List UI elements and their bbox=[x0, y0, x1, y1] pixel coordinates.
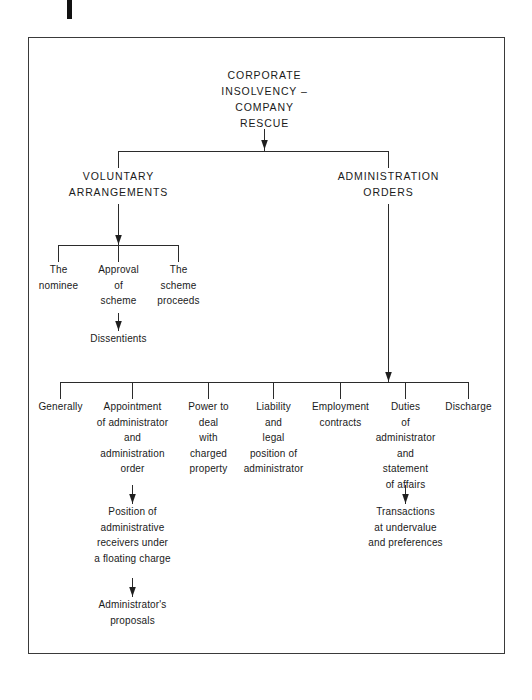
node-appointment-of-administrator: Appointment of administrator and adminis… bbox=[90, 399, 175, 477]
node-administration-orders: ADMINISTRATION ORDERS bbox=[322, 168, 455, 200]
node-transactions-at-undervalue: Transactions at undervalue and preferenc… bbox=[348, 504, 463, 551]
node-duties-of-administrator: Duties of administrator and statement of… bbox=[369, 399, 442, 492]
node-approval-of-scheme: Approval of scheme bbox=[85, 262, 152, 309]
node-employment-contracts: Employment contracts bbox=[304, 399, 377, 430]
node-position-of-administrative-receivers: Position of administrative receivers und… bbox=[74, 504, 191, 566]
page-edge-mark bbox=[67, 0, 72, 19]
node-liability-and-legal-position: Liability and legal position of administ… bbox=[239, 399, 308, 477]
node-root: CORPORATE INSOLVENCY – COMPANY RESCUE bbox=[189, 67, 340, 131]
node-voluntary-arrangements: VOLUNTARY ARRANGEMENTS bbox=[58, 168, 179, 200]
diagram-page: CORPORATE INSOLVENCY – COMPANY RESCUE VO… bbox=[0, 0, 532, 700]
node-power-to-deal-with-charged-property: Power to deal with charged property bbox=[176, 399, 241, 477]
node-administrators-proposals: Administrator's proposals bbox=[81, 597, 184, 628]
node-discharge: Discharge bbox=[437, 399, 500, 415]
node-the-scheme-proceeds: The scheme proceeds bbox=[145, 262, 212, 309]
node-generally: Generally bbox=[28, 399, 93, 415]
node-dissentients: Dissentients bbox=[84, 331, 153, 347]
node-the-nominee: The nominee bbox=[26, 262, 91, 293]
